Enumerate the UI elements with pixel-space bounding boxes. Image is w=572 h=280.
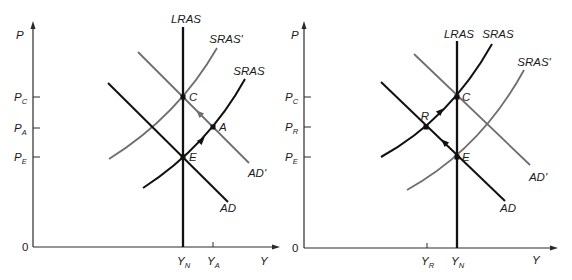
right-sras-prime-curve xyxy=(407,70,524,190)
left-y-axis-label: P xyxy=(16,29,24,41)
left-x-axis-label: Y xyxy=(260,255,269,267)
right-sras-label: SRAS xyxy=(482,28,514,40)
left-point-c-label: C xyxy=(189,91,198,103)
right-label-pe: PE xyxy=(285,151,299,166)
right-y-axis-label: P xyxy=(291,29,299,41)
left-sras-label: SRAS xyxy=(233,65,265,77)
ad-as-diagram: P 0 Y PC PA PE YN YA LRAS SRAS' SRAS AD'… xyxy=(0,0,572,280)
right-y-axis-arrow-icon xyxy=(302,21,307,29)
left-label-pe: PE xyxy=(14,151,28,166)
left-y-axis-arrow-icon xyxy=(31,21,36,29)
left-lras-label: LRAS xyxy=(171,13,201,25)
left-origin-label: 0 xyxy=(22,241,28,253)
right-point-e xyxy=(455,155,460,160)
left-point-e xyxy=(181,155,186,160)
right-label-yn: YN xyxy=(451,255,465,270)
left-ad-prime-label: AD' xyxy=(247,167,267,179)
right-panel: P 0 Y PC PR PE YR YN LRAS SRAS SRAS' AD'… xyxy=(285,21,558,270)
right-ad-label: AD xyxy=(499,202,516,214)
left-label-ya: YA xyxy=(207,255,220,270)
right-point-c-label: C xyxy=(462,91,471,103)
right-x-axis-label: Y xyxy=(532,254,541,266)
right-sras-curve xyxy=(381,44,492,157)
left-ad-curve xyxy=(108,83,228,202)
left-point-c xyxy=(181,95,186,100)
left-point-e-label: E xyxy=(189,151,197,163)
right-point-c xyxy=(455,95,460,100)
left-label-yn: YN xyxy=(177,255,191,270)
right-point-r-label: R xyxy=(421,110,429,122)
left-label-pc: PC xyxy=(14,91,28,106)
right-origin-label: 0 xyxy=(292,242,298,254)
right-ad-prime-curve xyxy=(414,54,530,165)
left-point-a-label: A xyxy=(218,121,227,133)
right-point-r xyxy=(424,125,429,130)
right-lras-label: LRAS xyxy=(444,28,474,40)
left-sras-prime-label: SRAS' xyxy=(209,33,243,45)
right-label-pc: PC xyxy=(285,91,299,106)
left-point-a xyxy=(211,125,216,130)
left-x-axis-arrow-icon xyxy=(272,245,280,250)
right-x-axis-arrow-icon xyxy=(550,246,558,251)
left-ad-label: AD xyxy=(219,202,236,214)
right-label-pr: PR xyxy=(285,121,299,136)
right-sras-prime-label: SRAS' xyxy=(517,56,551,68)
right-ad-prime-label: AD' xyxy=(528,171,548,183)
left-panel: P 0 Y PC PA PE YN YA LRAS SRAS' SRAS AD'… xyxy=(14,13,280,270)
left-label-pa: PA xyxy=(14,122,27,137)
right-label-yr: YR xyxy=(421,255,435,270)
right-point-e-label: E xyxy=(462,151,470,163)
